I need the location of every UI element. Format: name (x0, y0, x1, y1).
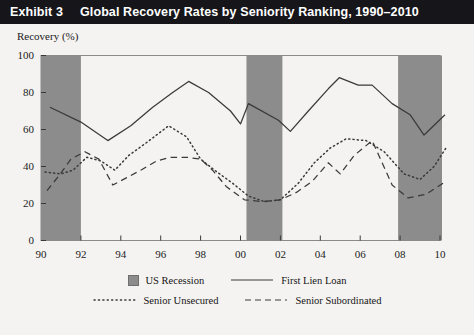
x-tick-label: 02 (275, 248, 286, 260)
y-tick-label: 80 (23, 86, 35, 98)
dotted-line-swatch-icon (93, 295, 137, 305)
y-tick-label: 40 (23, 160, 35, 172)
recession-band-group (41, 56, 442, 241)
legend-label-senior-unsecured: Senior Unsecured (144, 295, 219, 306)
legend-item-first-lien-loan[interactable]: First Lien Loan (230, 275, 346, 286)
y-tick-label: 0 (29, 234, 35, 246)
plot-frame (41, 56, 440, 241)
x-tick-label: 92 (75, 248, 86, 260)
exhibit-title: Global Recovery Rates by Seniority Ranki… (80, 5, 419, 19)
x-tick-label: 04 (315, 248, 327, 260)
x-tick-label: 06 (355, 248, 367, 260)
legend-item-senior-subordinated[interactable]: Senior Subordinated (244, 295, 381, 306)
recession-swatch-icon (128, 275, 139, 286)
x-tick-label: 08 (395, 248, 407, 260)
x-axis-tick-group: 9092949698000204060810 (36, 236, 447, 260)
series-line-senior-unsecured (45, 126, 446, 202)
y-tick-label: 100 (18, 49, 35, 61)
x-tick-label: 96 (155, 248, 167, 260)
x-tick-label: 94 (115, 248, 127, 260)
x-tick-label: 10 (435, 248, 447, 260)
series-line-group (45, 78, 446, 202)
exhibit-number-label: Exhibit 3 (10, 5, 63, 19)
series-line-senior-subordinated (47, 141, 446, 202)
dashed-line-swatch-icon (244, 295, 288, 305)
legend-item-us-recession[interactable]: US Recession (128, 275, 205, 286)
chart-legend: US Recession First Lien Loan Senior Unse… (0, 270, 474, 310)
exhibit-title-bar: Exhibit 3 Global Recovery Rates by Senio… (0, 0, 474, 24)
legend-row-1: US Recession First Lien Loan (0, 270, 474, 290)
x-tick-label: 00 (235, 248, 247, 260)
y-tick-label: 60 (23, 123, 35, 135)
chart-container: Recovery (%) 020406080100 90929496980002… (0, 24, 474, 335)
legend-row-2: Senior Unsecured Senior Subordinated (0, 290, 474, 310)
y-tick-label: 20 (23, 197, 35, 209)
legend-label-us-recession: US Recession (146, 275, 205, 286)
recession-band-3 (398, 56, 442, 241)
legend-item-senior-unsecured[interactable]: Senior Unsecured (93, 295, 219, 306)
recession-band-2 (246, 56, 282, 241)
legend-label-first-lien-loan: First Lien Loan (281, 275, 346, 286)
legend-label-senior-subordinated: Senior Subordinated (295, 295, 381, 306)
x-tick-label: 98 (195, 248, 207, 260)
solid-line-swatch-icon (230, 275, 274, 285)
recession-band-1 (41, 56, 81, 241)
x-tick-label: 90 (36, 248, 48, 260)
